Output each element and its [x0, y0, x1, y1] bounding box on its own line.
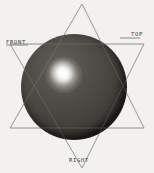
axis-label-front: FRONT: [6, 40, 26, 46]
3d-viewport[interactable]: FRONT TOP RIGHT: [0, 0, 154, 173]
axis-label-top: TOP: [131, 32, 143, 38]
axis-label-right: RIGHT: [69, 158, 89, 164]
shaded-sphere[interactable]: [21, 34, 127, 140]
